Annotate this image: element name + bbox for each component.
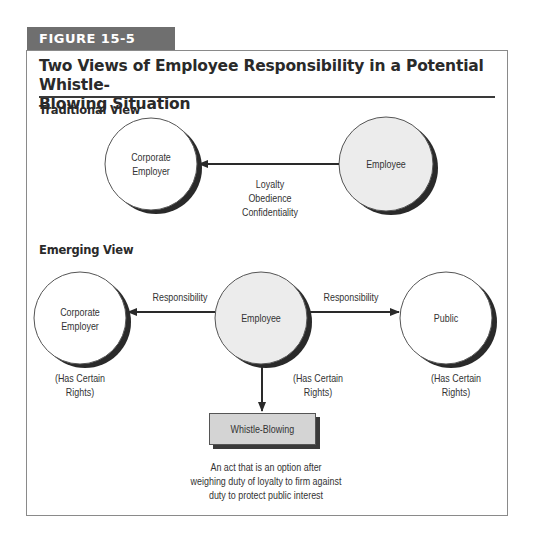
- emerg-employer-label: Corporate Employer: [42, 305, 119, 333]
- emerg-employee-label: Employee: [223, 311, 300, 325]
- trad-edge-labels: Loyalty Obedience Confidentiality: [232, 177, 309, 219]
- diagram-graphics: [0, 0, 533, 539]
- whistleblowing-box: Whistle-Blowing: [209, 413, 316, 445]
- emerg-public-note: (Has Certain Rights): [418, 371, 495, 399]
- emerg-public-label: Public: [408, 311, 485, 325]
- whistleblowing-caption: An act that is an option after weighing …: [181, 460, 351, 502]
- trad-employer-label: Corporate Employer: [113, 150, 190, 178]
- emerg-employer-note: (Has Certain Rights): [42, 371, 119, 399]
- emerg-employer-edge-label: Responsibility: [138, 290, 223, 304]
- whistleblowing-label: Whistle-Blowing: [231, 414, 294, 444]
- trad-employee-label: Employee: [347, 157, 425, 171]
- emerg-public-edge-label: Responsibility: [309, 290, 394, 304]
- emerg-employee-note: (Has Certain Rights): [280, 371, 357, 399]
